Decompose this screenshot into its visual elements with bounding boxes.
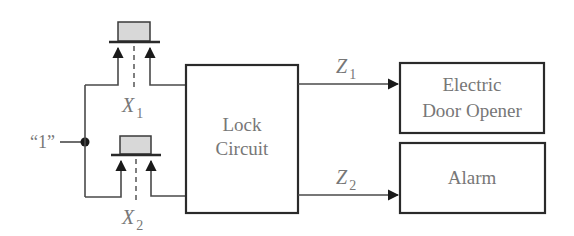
push-button-x1[interactable] [109,22,160,88]
push-button-x2[interactable] [111,136,161,200]
input-label-x1: X1 [121,94,143,121]
door-opener-label-line2: Door Opener [422,100,522,121]
lock-circuit-diagram: “1” X1 X2 Lock Circuit Z1 Z2 Electric Do… [0,0,574,236]
output-label-z1: Z1 [336,55,356,82]
x2-left-contact-wire [85,161,121,197]
x1-left-contact-wire [85,48,118,85]
button-cap[interactable] [120,136,151,154]
door-opener-label-line1: Electric [442,74,501,95]
input-label-x2: X2 [121,206,143,233]
alarm-label: Alarm [448,167,497,188]
output-label-z2: Z2 [336,166,356,193]
x1-right-contact-wire [150,48,186,85]
x2-right-contact-wire [151,161,186,196]
lock-circuit-label-line1: Lock [222,114,262,135]
button-cap[interactable] [118,22,150,41]
lock-circuit-label-line2: Circuit [216,138,269,159]
source-label: “1” [30,132,55,152]
